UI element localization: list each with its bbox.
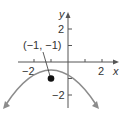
y-tick-label-2: 2	[58, 23, 64, 35]
vertex-label: (−1, −1)	[23, 39, 62, 51]
graph-canvas: y 2 −2 −2 2 x (−1, −1)	[0, 0, 129, 115]
x-axis-arrow-icon	[113, 60, 119, 65]
x-axis-label: x	[112, 65, 119, 77]
x-tick-label-2: 2	[98, 65, 104, 77]
y-axis-arrow-icon	[66, 12, 71, 18]
vertex-leader-line	[43, 52, 50, 76]
curve-right-arrow-icon	[92, 101, 99, 109]
y-axis-label: y	[58, 8, 66, 20]
y-tick-label-neg2: −2	[52, 89, 65, 101]
parabola-curve	[6, 70, 96, 105]
vertex-point	[48, 75, 55, 82]
curve-left-arrow-icon	[3, 101, 10, 109]
